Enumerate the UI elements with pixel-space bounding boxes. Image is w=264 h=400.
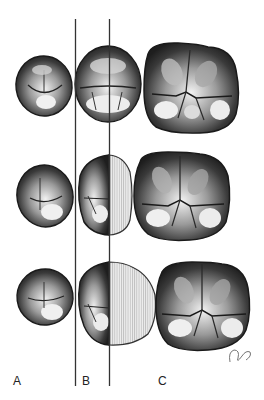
hatched-outline-row2 <box>109 155 132 235</box>
row-2 <box>12 152 230 240</box>
tooth-c-row3 <box>156 262 250 350</box>
artist-signature <box>230 350 251 362</box>
tooth-a-row1 <box>12 52 76 119</box>
row-1 <box>12 43 238 133</box>
label-c: C <box>158 374 167 388</box>
tooth-b-row2 <box>79 155 109 235</box>
tooth-b-row3 <box>79 262 109 345</box>
tooth-c-row1 <box>144 43 239 133</box>
dental-occlusal-diagram <box>0 0 264 400</box>
tooth-b-row1 <box>75 46 141 122</box>
label-a: A <box>13 374 21 388</box>
tooth-a-row3 <box>13 265 76 328</box>
tooth-a-row2 <box>12 161 78 232</box>
label-b: B <box>82 374 90 388</box>
row-3 <box>13 262 250 362</box>
tooth-c-row2 <box>134 152 230 240</box>
hatched-outline-row3 <box>109 262 156 345</box>
